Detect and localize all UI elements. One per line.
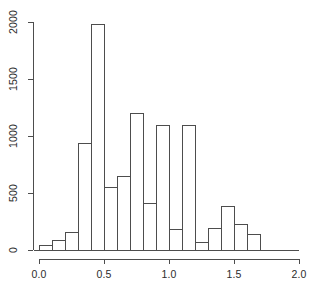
histogram-bar xyxy=(208,228,222,250)
histogram-bar xyxy=(39,245,53,250)
histogram-bar xyxy=(52,240,66,250)
x-tick-mark xyxy=(234,259,235,264)
histogram-bar xyxy=(143,203,157,250)
histogram-bar xyxy=(78,143,92,250)
x-tick-label: 0.5 xyxy=(84,268,124,280)
histogram-bar xyxy=(182,125,196,250)
y-tick-label: 500 xyxy=(6,180,20,206)
y-tick-label: 1500 xyxy=(6,66,20,92)
y-tick-mark xyxy=(28,136,33,137)
x-tick-mark xyxy=(169,259,170,264)
histogram-bar xyxy=(91,24,105,250)
y-tick-mark xyxy=(28,250,33,251)
x-tick-mark xyxy=(299,259,300,264)
histogram-bar xyxy=(221,206,235,250)
x-tick-label: 2.0 xyxy=(279,268,315,280)
x-tick-label: 1.0 xyxy=(149,268,189,280)
histogram-bar xyxy=(247,234,261,250)
x-tick-mark xyxy=(39,259,40,264)
histogram-bar xyxy=(130,113,144,250)
bar-baseline xyxy=(34,250,299,251)
histogram-bar xyxy=(156,125,170,250)
y-tick-mark xyxy=(28,193,33,194)
x-tick-mark xyxy=(104,259,105,264)
y-tick-label: 2000 xyxy=(6,9,20,35)
histogram-bar xyxy=(234,224,248,250)
histogram-bar xyxy=(104,187,118,250)
y-tick-mark xyxy=(28,79,33,80)
y-tick-label: 0 xyxy=(6,237,20,263)
x-tick-label: 1.5 xyxy=(214,268,254,280)
x-tick-label: 0.0 xyxy=(19,268,59,280)
histogram-bar xyxy=(169,229,183,250)
y-tick-label: 1000 xyxy=(6,123,20,149)
y-tick-mark xyxy=(28,22,33,23)
histogram-plot: 0500100015002000 0.00.51.01.52.0 xyxy=(0,0,315,290)
histogram-bar xyxy=(65,232,79,250)
histogram-bar xyxy=(195,242,209,250)
histogram-bar xyxy=(117,176,131,250)
y-axis-line xyxy=(33,22,34,250)
